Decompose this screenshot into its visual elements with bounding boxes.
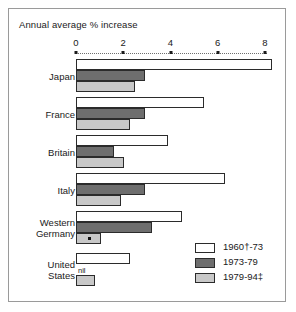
axis-tick-label: 6: [215, 37, 220, 48]
axis-tick-dot: [122, 51, 125, 54]
bar: [76, 195, 121, 206]
chart-legend: 1960†-731973-791979-94‡: [195, 241, 287, 286]
bar: [76, 108, 145, 119]
legend-swatch: [195, 258, 215, 268]
category-label: Italy: [58, 186, 75, 197]
legend-item: 1973-79: [195, 256, 287, 271]
category-label: France: [45, 110, 75, 121]
bar: [76, 157, 124, 168]
bar-group: Japan: [9, 59, 287, 94]
bar: [76, 222, 152, 233]
legend-item: 1960†-73: [195, 241, 287, 256]
bar: [76, 275, 95, 286]
legend-item: 1979-94‡: [195, 271, 287, 286]
asterisk-marker: [88, 237, 91, 240]
legend-label: 1973-79: [223, 256, 258, 267]
axis-tick-dot: [169, 51, 172, 54]
bar: [76, 81, 135, 92]
category-label-line: Germany: [36, 229, 75, 240]
legend-label: 1979-94‡: [223, 271, 263, 282]
axis-tick-label: 8: [262, 37, 267, 48]
bar: [76, 70, 145, 81]
bar: [76, 253, 130, 264]
bar: [76, 59, 272, 70]
bar: [76, 97, 204, 108]
category-label-line: States: [48, 271, 75, 282]
axis-tick-label: 0: [73, 37, 78, 48]
category-label: UnitedStates: [48, 260, 75, 281]
category-label-line: Italy: [58, 186, 75, 197]
bar-group: Italy: [9, 173, 287, 208]
axis-tick-label: 4: [168, 37, 173, 48]
category-label-line: Britain: [48, 148, 75, 159]
category-label: Britain: [48, 148, 75, 159]
bar-group: Britain: [9, 135, 287, 170]
legend-label: 1960†-73: [223, 241, 263, 252]
x-axis: 02468: [9, 37, 287, 59]
category-label-line: Japan: [49, 72, 75, 83]
bar-group: France: [9, 97, 287, 132]
legend-swatch: [195, 243, 215, 253]
bar: [76, 211, 182, 222]
bar: [76, 184, 145, 195]
category-label-line: Western: [36, 218, 75, 229]
legend-swatch: [195, 273, 215, 283]
axis-tick-dot: [216, 51, 219, 54]
chart-frame: Annual average % increase 02468 JapanFra…: [8, 8, 286, 302]
axis-tick-label: 2: [121, 37, 126, 48]
bar: [76, 135, 168, 146]
nil-label: nil: [78, 266, 86, 275]
bar: [76, 146, 114, 157]
chart-title: Annual average % increase: [19, 19, 138, 30]
axis-tick-dot: [264, 51, 267, 54]
category-label: Japan: [49, 72, 75, 83]
category-label-line: France: [45, 110, 75, 121]
category-label-line: United: [48, 260, 75, 271]
bar: [76, 173, 225, 184]
axis-tick-dot: [75, 51, 78, 54]
category-label: WesternGermany: [36, 218, 75, 239]
bar: [76, 119, 130, 130]
